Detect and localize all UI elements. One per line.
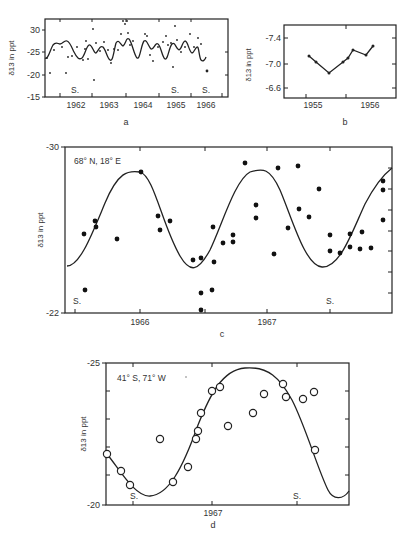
panel-b-xtick: 1956	[361, 100, 380, 110]
panel-c-xtick: 1966	[131, 317, 150, 327]
panel-c-location: 68° N, 18° E	[74, 156, 121, 166]
panel-d-location: 41° S, 71° W	[117, 373, 166, 383]
panel-b: -7.4 -7.0 -6.6 1955 1956 δ13 in ppt b	[244, 25, 396, 127]
panel-b-xtick: 1955	[304, 100, 323, 110]
panel-a-label: a	[123, 117, 128, 127]
season-marker: S.	[293, 491, 301, 501]
panel-c-ytick: -22	[46, 308, 59, 318]
season-marker: S.	[73, 296, 81, 306]
panel-a-ytick: -15	[27, 92, 40, 102]
panel-a-xtick: 1962	[67, 100, 86, 110]
panel-a-xtick: 1965	[167, 100, 186, 110]
panel-a-ylabel: δ13 in ppt	[7, 40, 16, 76]
panel-a: 30 -25 -20 -15 1962 1963 1964 1965 1966 …	[7, 19, 228, 127]
stray-dot	[185, 376, 187, 378]
season-marker: S.	[71, 85, 79, 95]
panel-d-frame	[106, 363, 349, 505]
panel-c: -30 -22 1966 1967 68° N, 18° E S. S. δ13…	[36, 142, 392, 339]
panel-c-ylabel: δ13 in ppt	[36, 212, 45, 248]
panel-c-label: c	[220, 329, 225, 339]
panel-c-observations	[82, 161, 386, 313]
season-marker: S.	[130, 491, 138, 501]
panel-a-ytick: -25	[27, 47, 40, 57]
season-marker: S.	[326, 296, 334, 306]
panel-b-frame	[284, 25, 396, 98]
panel-a-fit-curve	[45, 39, 206, 61]
panel-b-ytick: -6.6	[265, 83, 281, 93]
panel-b-series-line	[309, 46, 373, 73]
panel-a-xtick: 1966	[197, 100, 216, 110]
panel-a-ytick: -20	[27, 70, 40, 80]
panel-d-ylabel: δ13 in ppt	[79, 416, 88, 452]
panel-b-label: b	[342, 117, 347, 127]
panel-a-xtick: 1963	[100, 100, 119, 110]
panel-b-ytick: -7.0	[265, 59, 281, 69]
season-marker: S.	[171, 85, 179, 95]
season-marker: S.	[202, 85, 210, 95]
panel-b-ytick: -7.4	[265, 33, 281, 43]
panel-c-xtick: 1967	[258, 317, 277, 327]
panel-d-fit-curve	[107, 368, 349, 498]
panel-b-points	[308, 45, 375, 75]
panel-b-ylabel: δ13 in ppt	[244, 48, 253, 82]
panel-d-label: d	[210, 520, 215, 530]
panel-c-fit-curve	[67, 168, 392, 268]
panel-c-frame	[65, 147, 392, 313]
panel-c-ytick: -30	[46, 142, 59, 152]
panel-a-observations	[46, 20, 208, 81]
panel-d: -25 -20 1967 41° S, 71° W S. S. δ13 in p…	[79, 358, 349, 530]
panel-d-ytick: -20	[87, 500, 100, 510]
panel-a-ytick: 30	[30, 25, 40, 35]
panel-d-ytick: -25	[87, 358, 100, 368]
panel-a-xtick: 1964	[134, 100, 153, 110]
figure-canvas: 30 -25 -20 -15 1962 1963 1964 1965 1966 …	[0, 0, 411, 539]
panel-d-xtick: 1967	[204, 508, 223, 518]
